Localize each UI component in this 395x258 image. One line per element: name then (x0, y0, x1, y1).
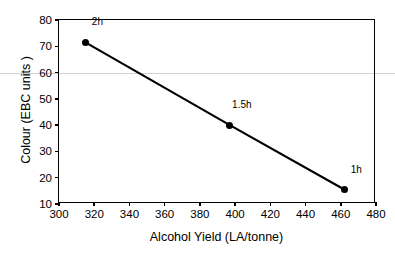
x-tick-mark (375, 202, 377, 206)
y-tick-mark (55, 124, 59, 126)
x-tick-label: 460 (331, 208, 350, 220)
x-tick-mark (305, 202, 307, 206)
y-tick-mark (55, 19, 59, 21)
x-tick-label: 360 (155, 208, 174, 220)
data-point[interactable] (341, 186, 348, 193)
x-tick-mark (93, 202, 95, 206)
x-tick-label: 480 (366, 208, 385, 220)
y-axis-title: Colour (EBC units ) (19, 30, 33, 190)
y-tick-label: 70 (39, 40, 52, 52)
data-point[interactable] (226, 122, 233, 129)
x-tick-mark (234, 202, 236, 206)
x-tick-mark (58, 202, 60, 206)
data-point-label: 1.5h (232, 99, 251, 110)
x-tick-mark (129, 202, 131, 206)
y-tick-mark (55, 72, 59, 74)
y-tick-mark (55, 98, 59, 100)
x-tick-mark (164, 202, 166, 206)
x-tick-label: 300 (49, 208, 68, 220)
x-tick-label: 420 (261, 208, 280, 220)
data-point-label: 1h (351, 164, 362, 175)
y-tick-mark (55, 151, 59, 153)
x-tick-label: 400 (226, 208, 245, 220)
x-tick-label: 320 (85, 208, 104, 220)
plot-area: 1020304050607080 30032034036038040042044… (58, 19, 375, 203)
x-axis-title: Alcohol Yield (LA/tonne) (58, 230, 375, 244)
y-tick-mark (55, 46, 59, 48)
data-point-label: 2h (92, 16, 103, 27)
x-tick-label: 440 (296, 208, 315, 220)
x-tick-mark (199, 202, 201, 206)
y-tick-label: 20 (39, 172, 52, 184)
x-tick-label: 380 (190, 208, 209, 220)
y-tick-label: 40 (39, 119, 52, 131)
x-tick-label: 340 (120, 208, 139, 220)
scatter-chart-figure: 1020304050607080 30032034036038040042044… (0, 0, 395, 258)
y-tick-label: 80 (39, 14, 52, 26)
y-tick-label: 30 (39, 145, 52, 157)
y-tick-label: 60 (39, 67, 52, 79)
data-point[interactable] (82, 39, 89, 46)
x-tick-mark (340, 202, 342, 206)
y-tick-label: 50 (39, 93, 52, 105)
x-tick-mark (270, 202, 272, 206)
y-tick-mark (55, 177, 59, 179)
series-line (59, 20, 376, 204)
